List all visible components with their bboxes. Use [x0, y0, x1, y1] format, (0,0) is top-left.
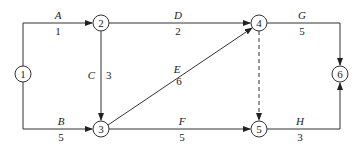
svg-text:2: 2 [98, 17, 104, 29]
node-6: 6 [332, 66, 348, 82]
node-2: 2 [93, 15, 109, 31]
label-G: G [298, 9, 306, 21]
node-5: 5 [251, 121, 267, 137]
duration-D: 2 [175, 25, 181, 37]
svg-text:5: 5 [256, 123, 262, 135]
node-4: 4 [251, 15, 267, 31]
label-E: E [173, 63, 181, 75]
duration-C: 3 [106, 69, 112, 81]
svg-text:4: 4 [256, 17, 262, 29]
svg-text:1: 1 [20, 68, 26, 80]
label-F: F [178, 115, 186, 127]
node-1: 1 [15, 66, 31, 82]
network-diagram: 1 2 3 4 5 6 A 1 B 5 C 3 D 2 E 6 F 5 G 5 … [0, 0, 358, 149]
label-B: B [58, 115, 65, 127]
duration-G: 5 [299, 25, 305, 37]
duration-H: 3 [297, 131, 303, 143]
label-A: A [54, 9, 62, 21]
duration-A: 1 [55, 25, 61, 37]
label-C: C [88, 69, 96, 81]
svg-text:6: 6 [337, 68, 343, 80]
node-3: 3 [93, 121, 109, 137]
label-H: H [295, 115, 305, 127]
duration-E: 6 [176, 75, 182, 87]
label-D: D [173, 9, 182, 21]
duration-F: 5 [179, 131, 185, 143]
svg-text:3: 3 [98, 123, 104, 135]
duration-B: 5 [58, 131, 64, 143]
